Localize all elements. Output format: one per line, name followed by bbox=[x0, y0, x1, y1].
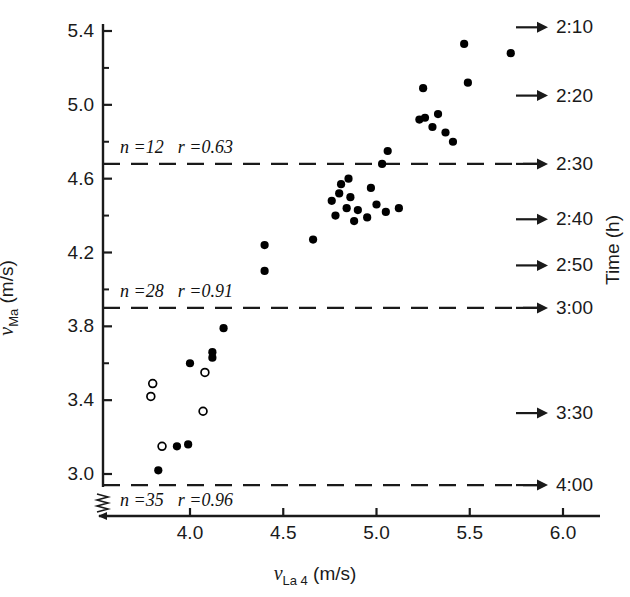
y-tick-label: 3.8 bbox=[42, 315, 94, 337]
time-tick-label: 2:40 bbox=[556, 208, 593, 230]
data-point-filled bbox=[346, 193, 354, 201]
time-arrow-head bbox=[537, 90, 548, 101]
data-point-open bbox=[199, 407, 207, 415]
time-arrow-head bbox=[537, 158, 548, 169]
data-point-filled bbox=[261, 267, 269, 275]
time-tick-label: 4:00 bbox=[556, 474, 593, 496]
time-arrow-head bbox=[537, 214, 548, 225]
group-statistics: n =12 r =0.63 bbox=[120, 137, 233, 158]
data-point-filled bbox=[309, 235, 317, 243]
data-point-open bbox=[147, 393, 155, 401]
data-point-filled bbox=[337, 180, 345, 188]
data-point-open bbox=[201, 369, 209, 377]
y-tick-label: 4.2 bbox=[42, 242, 94, 264]
x-tick-label: 5.0 bbox=[363, 522, 389, 544]
data-point-filled bbox=[354, 206, 362, 214]
data-point-filled bbox=[350, 217, 358, 225]
data-point-filled bbox=[343, 204, 351, 212]
data-point-filled bbox=[186, 359, 194, 367]
correlation-text: r =0.91 bbox=[178, 281, 233, 301]
data-point-filled bbox=[261, 241, 269, 249]
y-axis-title: vMa (m/s) bbox=[0, 260, 21, 336]
data-point-filled bbox=[378, 160, 386, 168]
time-tick-label: 3:00 bbox=[556, 297, 593, 319]
data-point-filled bbox=[421, 114, 429, 122]
time-tick-label: 2:10 bbox=[556, 16, 593, 38]
data-point-filled bbox=[331, 211, 339, 219]
data-point-filled bbox=[507, 49, 515, 57]
y-tick-label: 3.0 bbox=[42, 463, 94, 485]
x-tick-label: 4.0 bbox=[177, 522, 203, 544]
y-tick-label: 5.0 bbox=[42, 94, 94, 116]
time-tick-label: 3:30 bbox=[556, 402, 593, 424]
annotation-spacer bbox=[164, 282, 178, 301]
time-tick-label: 2:50 bbox=[556, 254, 593, 276]
x-axis-units: (m/s) bbox=[313, 563, 356, 584]
time-arrow-head bbox=[537, 302, 548, 313]
group-statistics: n =35 r =0.96 bbox=[120, 490, 233, 511]
data-point-filled bbox=[441, 128, 449, 136]
time-tick-label: 2:30 bbox=[556, 153, 593, 175]
data-point-filled bbox=[382, 208, 390, 216]
data-point-filled bbox=[434, 110, 442, 118]
x-axis-origin-marker bbox=[98, 512, 107, 520]
data-point-filled bbox=[384, 147, 392, 155]
y-axis-break-symbol bbox=[97, 494, 108, 512]
time-arrow-head bbox=[537, 480, 548, 491]
y-axis-units: (m/s) bbox=[0, 260, 17, 303]
data-point-filled bbox=[464, 79, 472, 87]
sample-size-text: n =35 bbox=[120, 490, 164, 510]
data-point-filled bbox=[419, 84, 427, 92]
sample-size-text: n =12 bbox=[120, 137, 164, 157]
time-arrow-head bbox=[537, 408, 548, 419]
x-axis-subscript: La 4 bbox=[283, 573, 308, 588]
correlation-text: r =0.96 bbox=[178, 490, 233, 510]
data-point-filled bbox=[449, 138, 457, 146]
y-tick-label: 5.4 bbox=[42, 20, 94, 42]
x-axis-title: vLa 4 (m/s) bbox=[274, 562, 357, 588]
plot-canvas bbox=[0, 0, 630, 597]
group-statistics: n =28 r =0.91 bbox=[120, 281, 233, 302]
scatter-plot-figure: 3.03.43.84.24.65.05.4 4.04.55.05.56.0 2:… bbox=[0, 0, 630, 597]
right-axis-title: Time (h) bbox=[602, 215, 624, 285]
time-arrow-head bbox=[537, 260, 548, 271]
correlation-text: r =0.63 bbox=[178, 137, 233, 157]
data-point-filled bbox=[328, 197, 336, 205]
data-point-filled bbox=[335, 189, 343, 197]
x-tick-label: 5.5 bbox=[457, 522, 483, 544]
y-tick-label: 4.6 bbox=[42, 168, 94, 190]
data-point-filled bbox=[372, 200, 380, 208]
time-tick-label: 2:20 bbox=[556, 85, 593, 107]
data-point-filled bbox=[208, 354, 216, 362]
data-point-filled bbox=[395, 204, 403, 212]
y-axis-subscript: Ma bbox=[6, 309, 21, 327]
y-axis-symbol: v bbox=[0, 327, 17, 336]
data-point-filled bbox=[219, 324, 227, 332]
data-point-filled bbox=[154, 466, 162, 474]
data-point-filled bbox=[363, 213, 371, 221]
data-point-filled bbox=[344, 175, 352, 183]
annotation-spacer bbox=[164, 138, 178, 157]
data-point-filled bbox=[173, 442, 181, 450]
sample-size-text: n =28 bbox=[120, 281, 164, 301]
annotation-spacer bbox=[164, 491, 178, 510]
data-point-filled bbox=[428, 123, 436, 131]
data-point-open bbox=[149, 380, 157, 388]
data-point-filled bbox=[367, 184, 375, 192]
x-tick-label: 6.0 bbox=[550, 522, 576, 544]
data-point-filled bbox=[184, 440, 192, 448]
x-axis-symbol: v bbox=[274, 562, 283, 584]
data-point-filled bbox=[460, 40, 468, 48]
data-point-open bbox=[158, 442, 166, 450]
time-arrow-head bbox=[537, 22, 548, 33]
x-tick-label: 4.5 bbox=[270, 522, 296, 544]
y-tick-label: 3.4 bbox=[42, 389, 94, 411]
